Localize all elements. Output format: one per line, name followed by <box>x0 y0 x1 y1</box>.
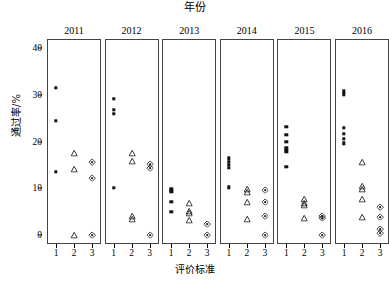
data-point-square <box>112 108 115 111</box>
x-tick-label: 3 <box>200 248 214 259</box>
x-tick-label: 3 <box>85 248 99 259</box>
facet-panel-2011 <box>47 39 101 244</box>
y-tick-label: 20 <box>16 138 42 147</box>
data-point-square <box>342 132 345 135</box>
data-point-square <box>285 140 288 143</box>
data-point-square <box>342 137 345 140</box>
x-tick-label: 2 <box>182 248 196 259</box>
y-axis: 010203040 <box>0 0 42 283</box>
x-tick-label: 2 <box>355 248 369 259</box>
data-point-square <box>54 170 57 173</box>
y-tick-mark <box>38 94 42 95</box>
data-point-square <box>227 185 230 188</box>
data-point-square <box>342 142 345 145</box>
x-tick-label: 3 <box>258 248 272 259</box>
x-tick-label: 2 <box>125 248 139 259</box>
facet-label-2016: 2016 <box>335 23 389 38</box>
data-point-square <box>342 93 345 96</box>
data-point-square <box>342 126 345 129</box>
data-point-square <box>169 200 172 203</box>
x-tick-label: 1 <box>279 248 293 259</box>
data-point-square <box>112 97 115 100</box>
facet-label-2015: 2015 <box>277 23 331 38</box>
x-tick-label: 2 <box>67 248 81 259</box>
facet-label-2012: 2012 <box>105 23 159 38</box>
y-tick-label: 0 <box>16 231 42 240</box>
chart-title: 年份 <box>0 1 389 14</box>
x-tick-label: 2 <box>240 248 254 259</box>
y-tick-mark <box>38 141 42 142</box>
facet-label-2014: 2014 <box>220 23 274 38</box>
data-point-square <box>285 133 288 136</box>
y-tick-label: 30 <box>16 91 42 100</box>
y-tick-mark <box>38 48 42 49</box>
facet-label-2011: 2011 <box>47 23 101 38</box>
data-point-square <box>169 210 172 213</box>
x-tick-label: 3 <box>373 248 387 259</box>
data-point-square <box>285 165 288 168</box>
x-tick-label: 1 <box>107 248 121 259</box>
x-tick-label: 3 <box>143 248 157 259</box>
x-tick-label: 2 <box>297 248 311 259</box>
data-point-square <box>112 112 115 115</box>
data-point-square <box>227 166 230 169</box>
facet-label-2013: 2013 <box>162 23 216 38</box>
data-point-square <box>169 190 172 193</box>
x-tick-label: 1 <box>222 248 236 259</box>
x-axis-label: 评价标准 <box>0 264 389 276</box>
x-tick-label: 1 <box>337 248 351 259</box>
data-point-square <box>54 86 57 89</box>
x-tick-label: 1 <box>49 248 63 259</box>
scatter-chart: 年份 通过率/% 评价标准 010203040 2011123201212320… <box>0 0 389 283</box>
y-tick-mark <box>38 234 42 235</box>
y-tick-label: 40 <box>16 44 42 53</box>
y-tick-mark <box>38 188 42 189</box>
y-tick-label: 10 <box>16 184 42 193</box>
data-point-square <box>285 150 288 153</box>
x-tick-label: 1 <box>164 248 178 259</box>
data-point-square <box>54 119 57 122</box>
data-point-square <box>285 125 288 128</box>
data-point-square <box>112 186 115 189</box>
x-tick-label: 3 <box>315 248 329 259</box>
